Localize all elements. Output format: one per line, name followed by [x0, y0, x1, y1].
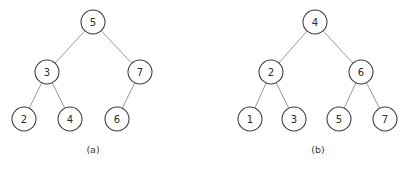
binary-tree-figure: 5372464261357 (a)(b): [0, 0, 411, 170]
tree-diagram-canvas: 5372464261357 (a)(b): [0, 0, 411, 170]
tree-node: 1: [238, 107, 262, 131]
tree-node: 4: [58, 107, 82, 131]
tree-edge: [55, 31, 85, 63]
tree-node: 3: [282, 107, 306, 131]
tree-node-label: 4: [67, 114, 73, 125]
tree-node: 5: [327, 107, 351, 131]
tree-node: 2: [12, 107, 36, 131]
tree-node-label: 2: [21, 114, 27, 125]
tree-edge: [101, 31, 132, 64]
tree-edge: [255, 83, 266, 108]
subfigure-captions-layer: (a)(b): [86, 144, 324, 155]
tree-node: 7: [128, 60, 152, 84]
tree-node: 4: [303, 10, 327, 34]
tree-node-label: 2: [268, 67, 274, 78]
subfigure-caption: (b): [311, 144, 324, 155]
tree-node-label: 1: [247, 114, 253, 125]
tree-node-label: 6: [114, 114, 120, 125]
tree-node: 6: [349, 60, 373, 84]
tree-node-label: 7: [137, 67, 143, 78]
tree-edge: [52, 83, 64, 108]
tree-node-label: 5: [90, 17, 96, 28]
subfigure-caption: (a): [86, 144, 99, 155]
tree-edge: [122, 83, 134, 108]
tree-node: 7: [373, 107, 397, 131]
tree-node-label: 3: [44, 67, 50, 78]
tree-node: 5: [81, 10, 105, 34]
tree-node: 6: [105, 107, 129, 131]
tree-node: 3: [35, 60, 59, 84]
tree-node-label: 7: [382, 114, 388, 125]
tree-node-label: 5: [336, 114, 342, 125]
tree-nodes-layer: 5372464261357: [12, 10, 397, 131]
tree-edge: [276, 83, 288, 108]
tree-edge: [279, 31, 307, 63]
tree-edge: [344, 83, 356, 108]
tree-node-label: 3: [291, 114, 297, 125]
tree-edge: [323, 31, 353, 63]
tree-node-label: 4: [312, 17, 318, 28]
tree-edges-layer: [29, 31, 379, 109]
tree-node-label: 6: [358, 67, 364, 78]
tree-node: 2: [259, 60, 283, 84]
tree-edge: [366, 83, 379, 109]
tree-edge: [29, 83, 41, 108]
